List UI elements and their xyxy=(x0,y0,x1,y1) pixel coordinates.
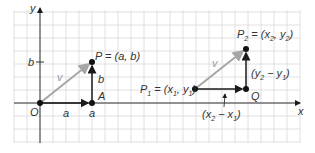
x-axis-label: x xyxy=(297,105,304,117)
component-a-label: a xyxy=(63,107,69,119)
vector-diagram: x y O a a A b b P = (a, b) v v Q P1 = (x… xyxy=(0,0,315,153)
pointer-x-component xyxy=(224,94,225,107)
x-tick-a-label: a xyxy=(89,107,95,119)
point-P2 xyxy=(243,46,249,52)
point-P1-label: P1 = (x1, y1) xyxy=(140,83,196,97)
vector-v-right-label: v xyxy=(212,57,219,69)
point-P2-label: P2 = (x2, y2) xyxy=(237,28,293,42)
vector-v-right xyxy=(195,51,243,89)
origin-label: O xyxy=(30,106,39,118)
y-tick-b-label: b xyxy=(28,56,34,68)
point-Q xyxy=(243,86,249,92)
point-P-label: P = (a, b) xyxy=(95,50,140,62)
vertical-component-label: (y2 − y1) xyxy=(251,67,290,81)
point-A xyxy=(89,100,95,106)
vector-v-left xyxy=(40,64,89,103)
component-b-label: b xyxy=(98,73,104,85)
point-Q-label: Q xyxy=(251,90,260,102)
point-A-label: A xyxy=(97,90,105,102)
